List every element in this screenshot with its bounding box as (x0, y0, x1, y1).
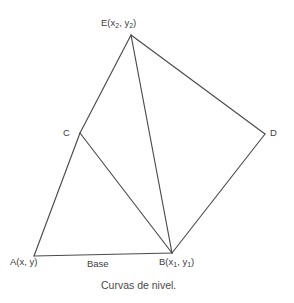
vertex-label-e: E(x2, y2) (101, 18, 136, 28)
edge-d-b (172, 134, 265, 253)
figure-caption: Curvas de nivel. (101, 280, 176, 291)
figure-container: E(x2, y2) C D A(x, y) B(x1, y1) Base Cur… (0, 0, 294, 303)
vertex-label-d: D (270, 128, 277, 138)
edge-e-b (131, 35, 172, 253)
segment-label-base: Base (87, 259, 109, 269)
edge-a-c (34, 133, 80, 256)
vertex-label-c: C (63, 128, 70, 138)
geometry-diagram (0, 0, 294, 303)
edge-c-e (80, 35, 131, 133)
vertex-label-a: A(x, y) (10, 257, 37, 267)
edge-c-b (80, 133, 172, 253)
edge-e-d (131, 35, 265, 134)
vertex-label-b: B(x1, y1) (159, 257, 194, 267)
edge-b-a-base (34, 253, 172, 256)
